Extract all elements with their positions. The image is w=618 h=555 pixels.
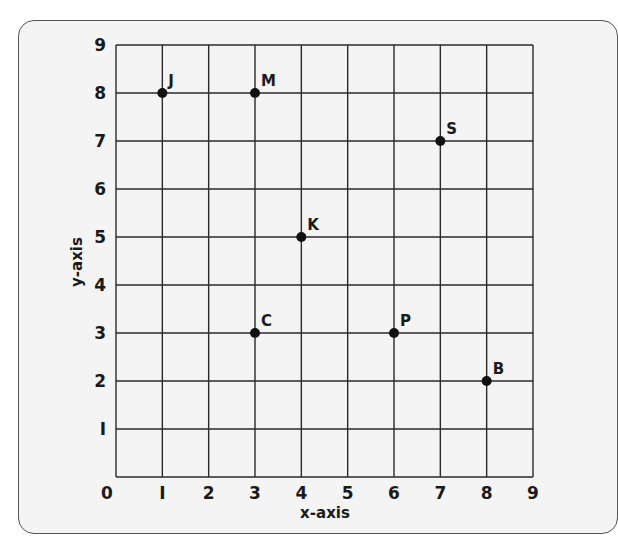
x-tick-label: 5 <box>342 483 354 503</box>
data-point-j <box>157 88 167 98</box>
x-tick-label: 7 <box>434 483 446 503</box>
point-label-p: P <box>400 312 411 330</box>
x-tick-label: I <box>159 483 165 503</box>
data-point-b <box>482 376 492 386</box>
y-tick-label: 5 <box>94 227 106 247</box>
y-axis-label: y-axis <box>68 237 86 287</box>
y-tick-label: 6 <box>94 179 106 199</box>
x-tick-label: 9 <box>527 483 539 503</box>
data-point-s <box>435 136 445 146</box>
point-label-j: J <box>167 72 174 90</box>
x-axis-label: x-axis <box>300 504 350 522</box>
point-label-b: B <box>493 360 504 378</box>
y-tick-label: 3 <box>94 323 106 343</box>
grid-lines <box>116 45 533 477</box>
data-point-k <box>296 232 306 242</box>
data-point-c <box>250 328 260 338</box>
point-label-k: K <box>307 216 320 234</box>
point-label-c: C <box>261 312 272 330</box>
y-tick-label: 8 <box>94 83 106 103</box>
y-tick-label: 2 <box>94 371 106 391</box>
x-tick-label: 8 <box>481 483 493 503</box>
point-label-s: S <box>446 120 457 138</box>
y-tick-label: I <box>100 419 106 439</box>
x-tick-label: 4 <box>295 483 307 503</box>
data-point-m <box>250 88 260 98</box>
data-point-p <box>389 328 399 338</box>
point-label-m: M <box>261 72 276 90</box>
x-tick-label: 2 <box>203 483 215 503</box>
x-tick-label: 6 <box>388 483 400 503</box>
x-tick-labels: 0I23456789 <box>101 483 539 503</box>
y-tick-label: 9 <box>94 35 106 55</box>
y-tick-label: 7 <box>94 131 106 151</box>
y-tick-label: 4 <box>94 275 106 295</box>
y-tick-labels: I23456789 <box>94 35 106 439</box>
x-tick-label: 3 <box>249 483 261 503</box>
x-tick-label: 0 <box>101 483 113 503</box>
